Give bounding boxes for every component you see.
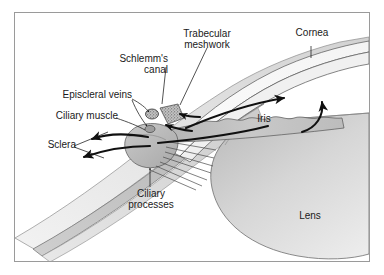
leader-trabecular-meshwork <box>180 48 207 105</box>
label-episcleral-veins: Episcleral veins <box>24 89 132 100</box>
label-sclera: Sclera <box>22 139 76 150</box>
label-schlemms-canal-line1: Schlemm's <box>92 53 168 64</box>
label-schlemms-canal-line2: canal <box>92 64 168 75</box>
label-trabecular-meshwork-line2: meshwork <box>160 39 254 50</box>
label-iris: Iris <box>248 113 280 124</box>
label-trabecular-meshwork-line1: Trabecular <box>160 28 254 39</box>
leader-episcleral-veins-b <box>132 100 147 126</box>
episcleral-veins-structure <box>145 125 155 132</box>
label-lens: Lens <box>290 210 330 221</box>
label-ciliary-muscle: Ciliary muscle <box>22 110 118 121</box>
diagram-page: Cornea Trabecular meshwork Schlemm's can… <box>0 0 384 275</box>
label-ciliary-processes-line2: processes <box>106 199 196 210</box>
leader-sclera-a <box>74 132 108 146</box>
label-cornea: Cornea <box>282 27 342 38</box>
label-ciliary-processes-line1: Ciliary <box>114 188 188 199</box>
